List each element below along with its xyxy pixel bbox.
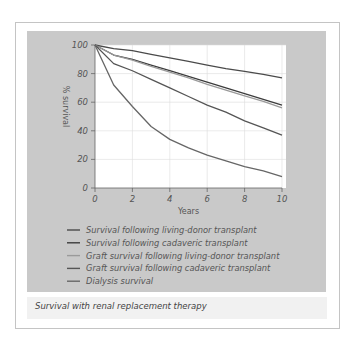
x-axis-title: Years: [177, 207, 199, 216]
plot-area: [95, 45, 286, 188]
x-tick-label: 10: [277, 194, 288, 204]
y-tick-label: 20: [77, 154, 88, 164]
y-axis-title: % survival: [61, 86, 70, 128]
x-tick-label: 2: [130, 194, 135, 204]
legend-label: Graft survival following cadaveric trans…: [86, 263, 271, 273]
y-tick-label: 60: [77, 97, 88, 107]
legend-label: Dialysis survival: [86, 276, 154, 286]
y-tick-label: 100: [72, 40, 88, 50]
caption-bar: Survival with renal replacement therapy: [27, 297, 327, 319]
y-tick-label: 80: [77, 69, 88, 79]
legend-label: Survival following living-donor transpla…: [86, 225, 257, 235]
y-tick-label: 40: [77, 126, 88, 136]
figure-caption: Survival with renal replacement therapy: [35, 301, 207, 311]
x-tick-label: 6: [204, 194, 210, 204]
x-tick-label: 8: [242, 194, 248, 204]
legend-label: Survival following cadaveric transplant: [86, 238, 248, 248]
x-tick-label: 0: [92, 194, 97, 204]
y-tick-label: 0: [83, 183, 88, 193]
x-tick-label: 4: [167, 194, 172, 204]
legend-label: Graft survival following living-donor tr…: [86, 251, 280, 261]
